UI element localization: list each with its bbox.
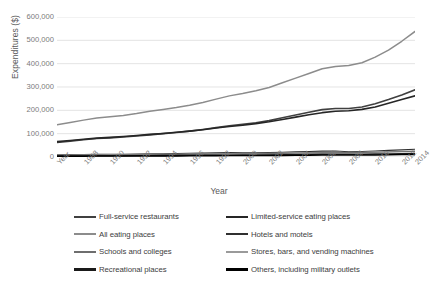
series-line: [57, 96, 415, 142]
legend-item-label: Hotels and motels: [251, 230, 313, 239]
legend-item[interactable]: Others, including military outlets: [226, 265, 424, 274]
legend-item[interactable]: Limited-service eating places: [226, 212, 424, 221]
expenditures-line-chart: Expenditures ($) 600,000500,000400,00030…: [0, 0, 438, 285]
x-axis-title: Year: [0, 186, 438, 196]
legend-line-swatch: [74, 216, 96, 218]
legend-item-label: Schools and colleges: [99, 247, 172, 256]
legend-line-swatch: [226, 216, 248, 218]
series-line: [57, 31, 415, 124]
x-axis-tick: 2014: [413, 148, 431, 166]
legend-item-label: Limited-service eating places: [251, 212, 350, 221]
legend-item-label: Recreational places: [99, 265, 167, 274]
legend-item[interactable]: Hotels and motels: [226, 230, 424, 239]
y-axis-tick-labels: 600,000500,000400,000300,000200,000100,0…: [0, 0, 54, 285]
chart-legend: Full-service restaurantsLimited-service …: [74, 208, 424, 278]
y-axis-tick: 100,000: [6, 129, 54, 138]
legend-line-swatch: [74, 251, 96, 253]
legend-line-swatch: [226, 233, 248, 235]
y-axis-tick: 300,000: [6, 82, 54, 91]
y-axis-tick: 500,000: [6, 35, 54, 44]
legend-line-swatch: [74, 268, 96, 271]
legend-item-label: All eating places: [99, 230, 155, 239]
legend-item[interactable]: Schools and colleges: [74, 247, 226, 256]
y-axis-tick: 200,000: [6, 105, 54, 114]
legend-item-label: Stores, bars, and vending machines: [251, 247, 374, 256]
legend-line-swatch: [226, 268, 248, 271]
legend-item[interactable]: Recreational places: [74, 265, 226, 274]
legend-item[interactable]: Full-service restaurants: [74, 212, 226, 221]
legend-item[interactable]: Stores, bars, and vending machines: [226, 247, 424, 256]
plot-area: [57, 17, 415, 157]
legend-item-label: Others, including military outlets: [251, 265, 360, 274]
y-axis-tick: 0: [6, 152, 54, 161]
y-axis-tick: 600,000: [6, 12, 54, 21]
y-axis-tick: 400,000: [6, 59, 54, 68]
legend-item[interactable]: All eating places: [74, 230, 226, 239]
legend-line-swatch: [74, 233, 96, 235]
legend-line-swatch: [226, 251, 248, 253]
series-lines: [57, 17, 415, 157]
legend-item-label: Full-service restaurants: [99, 212, 179, 221]
